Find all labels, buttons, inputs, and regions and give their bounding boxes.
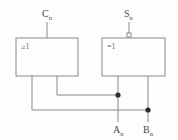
label-input-b-subscript: n [150, 130, 154, 137]
label-input-a: An [113, 124, 124, 137]
wire-or-input-a [57, 76, 118, 95]
wire-or-input-b [32, 76, 148, 110]
label-input-b: Bn [143, 124, 154, 137]
xor-gate-symbol: =1 [107, 42, 116, 51]
label-carry-out: Cn [42, 8, 53, 21]
junction-dot-a [115, 92, 120, 97]
junction-dot-b [145, 107, 150, 112]
circuit-diagram-canvas: ≥1 =1 Cn Sn An Bn [0, 0, 178, 140]
label-carry-out-subscript: n [49, 14, 53, 21]
label-input-a-subscript: n [120, 130, 124, 137]
circuit-svg: ≥1 =1 Cn Sn An Bn [0, 0, 178, 140]
inversion-bubble-icon [127, 33, 131, 37]
label-sum-subscript: n [130, 14, 134, 21]
label-sum: Sn [124, 8, 134, 21]
or-gate-symbol: ≥1 [21, 42, 29, 51]
